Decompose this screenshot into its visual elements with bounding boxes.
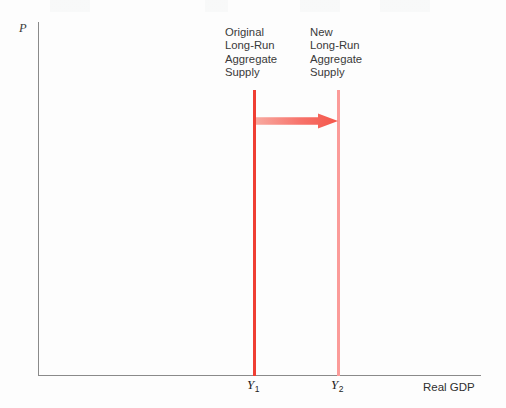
tick-label-y2-text: Y (331, 377, 338, 392)
new-lras-curve (337, 90, 340, 376)
new-lras-label: New Long-Run Aggregate Supply (310, 26, 362, 80)
new-lras-label-line-4: Supply (310, 66, 362, 79)
tick-label-y2-subscript: 2 (339, 384, 344, 394)
tick-label-y2: Y2 (331, 377, 343, 393)
original-lras-label-line-4: Supply (225, 66, 277, 79)
x-axis-label: Real GDP (423, 381, 475, 393)
new-lras-label-line-3: Aggregate (310, 53, 362, 66)
tick-label-y1-text: Y (247, 377, 254, 392)
original-lras-curve (253, 90, 256, 376)
y-axis-line (38, 22, 39, 376)
original-lras-label-line-1: Original (225, 26, 277, 39)
x-axis-line (38, 375, 481, 376)
new-lras-label-line-1: New (310, 26, 362, 39)
original-lras-label-line-3: Aggregate (225, 53, 277, 66)
tick-label-y1: Y1 (247, 377, 259, 393)
rightward-shift-arrow-icon (256, 113, 338, 129)
tick-label-y1-subscript: 1 (255, 384, 260, 394)
original-lras-label-line-2: Long-Run (225, 39, 277, 52)
original-lras-label: Original Long-Run Aggregate Supply (225, 26, 277, 80)
y-axis-label: P (19, 21, 27, 36)
figure-canvas: P Real GDP Original Long-Run Aggregate S… (0, 0, 506, 408)
new-lras-label-line-2: Long-Run (310, 39, 362, 52)
scan-artifact (0, 0, 506, 12)
